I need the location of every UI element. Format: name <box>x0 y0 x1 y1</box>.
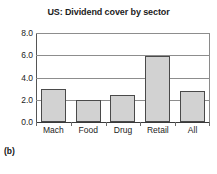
chart-title: US: Dividend cover by sector <box>0 7 217 17</box>
bar-slot-food <box>71 33 106 122</box>
y-axis-labels: 8.0 6.0 4.0 2.0 0.0 <box>0 33 33 122</box>
panel-label: (b) <box>4 146 15 156</box>
bar-all <box>180 91 205 122</box>
x-tick-label-mach: Mach <box>36 125 71 135</box>
x-tick-label-food: Food <box>71 125 106 135</box>
bar-food <box>76 100 101 122</box>
bar-slot-all <box>175 33 210 122</box>
y-tick-label-6: 6.0 <box>1 50 33 60</box>
y-tick-label-4: 4.0 <box>1 73 33 83</box>
bar-slot-mach <box>36 33 71 122</box>
next-figure-fragment <box>0 168 217 174</box>
x-tick-label-all: All <box>175 125 210 135</box>
bar-slot-drug <box>106 33 141 122</box>
x-tick-label-drug: Drug <box>106 125 141 135</box>
bar-series <box>36 33 210 122</box>
bar-drug <box>110 95 135 122</box>
bar-retail <box>145 56 170 122</box>
x-axis-labels: Mach Food Drug Retail All <box>36 125 210 135</box>
y-tick-label-2: 2.0 <box>1 95 33 105</box>
figure-panel-b: US: Dividend cover by sector 8.0 6.0 4.0… <box>0 0 217 174</box>
y-tick-label-0: 0.0 <box>1 117 33 127</box>
y-tick-label-8: 8.0 <box>1 28 33 38</box>
plot-area <box>36 33 210 122</box>
bar-mach <box>41 89 66 122</box>
bar-slot-retail <box>140 33 175 122</box>
x-tick-label-retail: Retail <box>140 125 175 135</box>
